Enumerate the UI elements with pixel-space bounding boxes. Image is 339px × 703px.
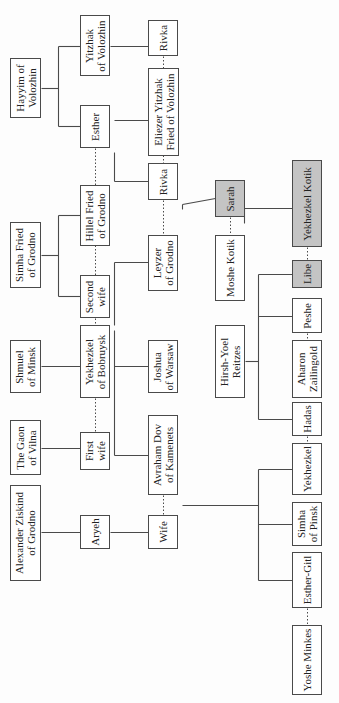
person-box-hayyim: Hayyim of Volozhin: [10, 58, 41, 118]
person-box-peshe: Peshe: [292, 298, 322, 333]
person-box-eliezer: Eliezer Yitzhak Fried of Volozhin: [148, 68, 179, 156]
person-name: Wife: [157, 521, 169, 543]
person-name: Yekhezkel of Bobruysk: [83, 334, 107, 389]
person-box-libe: Libe: [292, 260, 322, 288]
person-name: Simha of Pinsk: [295, 506, 319, 542]
person-name: The Gaon of Vilna: [14, 426, 38, 470]
person-name: Second wife: [83, 280, 107, 312]
person-box-rivka2: Rivka: [148, 163, 178, 200]
person-box-first-wife: First wife: [80, 432, 110, 470]
person-name: Joshua of Warsaw: [151, 343, 175, 390]
person-name: Hayyim of Volozhin: [14, 64, 38, 111]
person-name: Leyzer of Grodno: [151, 240, 175, 286]
person-box-hillel: Hillel Fried of Grodno: [80, 185, 110, 246]
person-name: Hirsh-Yoel Reitzes: [218, 337, 242, 385]
person-name: Aryeh: [89, 518, 101, 546]
person-name: Shmuel of Minsk: [14, 346, 38, 386]
person-box-esther: Esther: [80, 105, 110, 148]
person-name: Yekhezkel Kotik: [301, 167, 313, 241]
person-name: Eliezer Yitzhak Fried of Volozhin: [152, 73, 176, 150]
person-name: Simha Fried of Grodno: [14, 228, 38, 282]
person-box-yekhezkel-bobruysk: Yekhezkel of Bobruysk: [80, 325, 110, 398]
family-tree-diagram: Hayyim of VolozhinYitzhak of VolozhinEst…: [0, 0, 339, 703]
person-name: Aharon Zailingold: [295, 346, 319, 392]
person-name: Moshe Kotik: [224, 239, 236, 297]
person-box-aryeh: Aryeh: [80, 515, 110, 549]
person-name: Libe: [301, 264, 313, 284]
person-name: Peshe: [301, 303, 313, 329]
person-name: Esther-Gitl: [301, 556, 313, 605]
person-box-alexander: Alexander Ziskind of Grodno: [10, 485, 41, 581]
person-box-hadas: Hadas: [292, 402, 322, 436]
person-box-rivka1: Rivka: [148, 20, 178, 56]
person-box-simha-pinsk: Simha of Pinsk: [292, 502, 322, 546]
person-box-esther-gitl: Esther-Gitl: [292, 552, 322, 608]
person-name: Hillel Fried of Grodno: [83, 190, 107, 241]
person-box-wife: Wife: [148, 515, 178, 549]
person-name: Esther: [89, 112, 101, 140]
person-name: Yekhezkel: [301, 446, 313, 492]
person-box-simha-fried: Simha Fried of Grodno: [10, 222, 41, 288]
person-name: First wife: [83, 441, 107, 461]
person-box-yitzhak: Yitzhak of Volozhin: [80, 15, 110, 76]
person-box-yekhezkel: Yekhezkel: [292, 443, 322, 495]
person-box-yoshe: Yoshe Minkes: [292, 625, 322, 695]
person-box-moshe: Moshe Kotik: [215, 235, 245, 301]
person-name: Alexander Ziskind of Grodno: [14, 492, 38, 574]
person-name: Yitzhak of Volozhin: [83, 20, 107, 71]
person-box-avraham: Avraham Dov of Kamenets: [148, 415, 178, 495]
person-box-sarah: Sarah: [215, 180, 245, 217]
person-box-shmuel: Shmuel of Minsk: [10, 340, 41, 393]
person-box-second-wife: Second wife: [80, 275, 110, 318]
person-name: Rivka: [157, 168, 169, 194]
person-box-leyzer: Leyzer of Grodno: [148, 235, 178, 291]
person-box-joshua: Joshua of Warsaw: [148, 340, 178, 393]
person-name: Sarah: [224, 186, 236, 211]
person-box-aharon: Aharon Zailingold: [292, 340, 322, 398]
person-box-yekhezkel-kotik: Yekhezkel Kotik: [292, 160, 322, 247]
person-name: Hadas: [301, 405, 313, 433]
person-box-hirsh: Hirsh-Yoel Reitzes: [215, 325, 245, 398]
person-name: Avraham Dov of Kamenets: [151, 424, 175, 486]
descent-line: [183, 199, 216, 205]
person-box-gaon: The Gaon of Vilna: [10, 420, 41, 475]
person-name: Rivka: [157, 25, 169, 51]
person-name: Yoshe Minkes: [301, 629, 313, 692]
